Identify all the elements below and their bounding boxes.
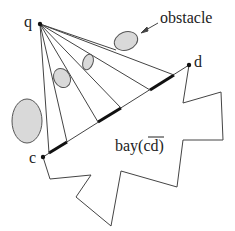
label-c: c [29,149,36,166]
obstacle-large-left [12,99,42,143]
point-q [38,22,42,26]
label-q: q [24,13,32,31]
point-c [41,155,45,159]
visible-segment [98,108,121,122]
label-d: d [194,53,202,70]
visible-segment [49,142,67,153]
visible-segment [150,75,174,90]
bay-diagram: q c d obstacle bay(cd) [0,0,235,231]
label-bay: bay(cd) [115,137,164,155]
label-obstacle: obstacle [160,9,212,26]
obstacle-mid [50,65,74,90]
point-d [187,63,191,67]
obstacle-arrow [141,23,158,33]
